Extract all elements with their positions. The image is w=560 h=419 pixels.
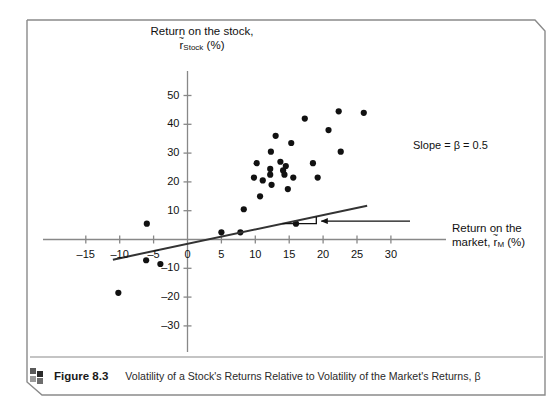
data-point xyxy=(361,110,367,116)
y-axis-unit: (%) xyxy=(207,39,225,51)
x-axis-unit: (%) xyxy=(507,236,525,248)
blocks-icon xyxy=(30,368,47,385)
scatter-chart xyxy=(0,0,560,419)
x-axis-title-line1: Return on the xyxy=(452,222,522,234)
y-tick-label: –30 xyxy=(154,319,180,331)
y-tick-label: 30 xyxy=(154,146,180,158)
y-axis-subscript: Stock xyxy=(183,43,203,52)
data-point xyxy=(277,159,283,165)
data-point xyxy=(268,149,274,155)
data-point xyxy=(251,174,257,180)
x-axis-r-tilde: ~r xyxy=(494,235,498,249)
y-tick-label: 40 xyxy=(154,117,180,129)
data-point xyxy=(115,290,121,296)
x-tick-label: 20 xyxy=(312,248,334,260)
data-point xyxy=(273,133,279,139)
slope-annotation-label: Slope = β = 0.5 xyxy=(413,139,488,151)
x-tick-label: 0 xyxy=(177,248,199,260)
y-tick-label: 10 xyxy=(154,204,180,216)
data-point xyxy=(267,172,273,178)
y-tick-label: –10 xyxy=(154,261,180,273)
figure-number: Figure 8.3 xyxy=(54,370,108,382)
data-point xyxy=(310,160,316,166)
x-axis-subscript: M xyxy=(497,240,504,249)
data-point xyxy=(268,182,274,188)
data-point xyxy=(218,229,224,235)
y-tick-label: 20 xyxy=(154,175,180,187)
data-point xyxy=(315,174,321,180)
data-point xyxy=(283,163,289,169)
data-point xyxy=(302,115,308,121)
data-point xyxy=(325,127,331,133)
data-point xyxy=(241,206,247,212)
x-tick-label: 15 xyxy=(278,248,300,260)
x-tick-label: –5 xyxy=(143,248,165,260)
figure-page: Return on the stock, ~rStock (%) Return … xyxy=(0,0,560,419)
data-point xyxy=(144,221,150,227)
x-axis-title-line2-pre: market, xyxy=(452,236,494,248)
y-tick-label: 50 xyxy=(154,89,180,101)
figure-caption-text: Volatility of a Stock's Returns Relative… xyxy=(125,370,480,382)
x-tick-label: –15 xyxy=(75,248,97,260)
y-axis-title-line1: Return on the stock, xyxy=(151,25,254,37)
y-axis-r-tilde: ~r xyxy=(180,38,184,52)
data-point xyxy=(267,166,273,172)
x-axis-title: Return on the market, ~rM (%) xyxy=(452,221,525,252)
x-tick-label: 25 xyxy=(346,248,368,260)
y-tick-label: –20 xyxy=(154,290,180,302)
data-point xyxy=(285,186,291,192)
x-tick-label: 5 xyxy=(210,248,232,260)
y-axis-title: Return on the stock, ~rStock (%) xyxy=(122,24,282,55)
data-point xyxy=(338,149,344,155)
x-tick-label: 10 xyxy=(244,248,266,260)
data-point xyxy=(260,177,266,183)
x-tick-label: 30 xyxy=(380,248,402,260)
figure-caption-row: Figure 8.3 Volatility of a Stock's Retur… xyxy=(30,363,530,389)
data-point xyxy=(288,140,294,146)
data-point xyxy=(257,193,263,199)
data-point xyxy=(254,160,260,166)
x-tick-label: –10 xyxy=(109,248,131,260)
data-point xyxy=(290,174,296,180)
data-point xyxy=(281,172,287,178)
data-point xyxy=(336,108,342,114)
